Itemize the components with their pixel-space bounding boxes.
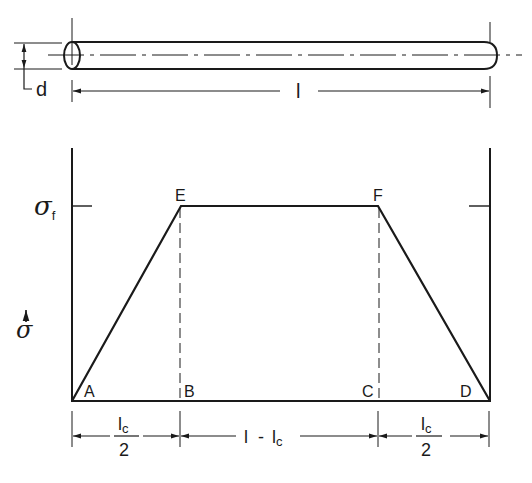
fiber-stress-diagram: d l σf σ A B C D E F	[0, 0, 532, 483]
svg-text:2: 2	[421, 440, 431, 460]
right-dimension-label: lc 2	[416, 414, 442, 460]
diameter-label: d	[36, 78, 47, 100]
point-F-label: F	[373, 187, 383, 204]
left-dimension-label: lc 2	[114, 414, 139, 460]
diameter-dimension	[24, 44, 32, 89]
sigma-f-label: σf	[34, 191, 56, 223]
point-D-label: D	[460, 383, 472, 400]
point-A-label: A	[84, 383, 95, 400]
point-B-label: B	[184, 383, 195, 400]
sigma-axis-label: σ	[16, 310, 33, 344]
point-E-label: E	[175, 187, 186, 204]
point-C-label: C	[362, 383, 374, 400]
middle-dimension-label: l-lc	[244, 427, 283, 449]
svg-text:σ: σ	[16, 316, 33, 344]
svg-text:l-lc: l-lc	[244, 427, 283, 449]
svg-text:lc: lc	[421, 414, 432, 436]
length-label: l	[296, 80, 300, 102]
svg-text:lc: lc	[118, 414, 129, 436]
fiber-drawing	[14, 18, 522, 108]
stress-plot	[72, 148, 490, 402]
stress-trapezoid	[72, 206, 490, 401]
svg-text:2: 2	[119, 440, 129, 460]
